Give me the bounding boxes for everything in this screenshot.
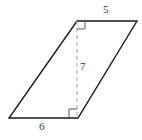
bottom-right-angle-marker [69, 109, 77, 117]
top-side-length-label: 5 [103, 4, 109, 15]
height-length-label: 7 [80, 61, 86, 72]
parallelogram-drawing [0, 0, 142, 140]
geometry-figure-canvas: 5 7 6 [0, 0, 142, 140]
parallelogram-outline [9, 21, 137, 118]
top-right-angle-marker [77, 21, 85, 29]
bottom-side-length-label: 6 [39, 121, 45, 132]
